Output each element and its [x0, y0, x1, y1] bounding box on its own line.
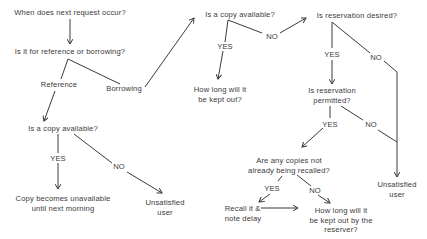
- arrow-borrowing-to-copy: [145, 18, 194, 87]
- edge-label-borrow-yes: YES: [217, 42, 233, 52]
- edge-label-desired-no: NO: [370, 53, 382, 63]
- decision-tree-diagram: When does next request occur? Is it for …: [0, 0, 427, 239]
- node-how-long-reserver: How long will it be kept out by the rese…: [309, 206, 372, 235]
- node-copy-unavailable: Copy becomes unavailable until next morn…: [16, 194, 111, 213]
- edge-label-desired-yes: YES: [324, 50, 340, 60]
- edge-label-ref-yes: YES: [50, 154, 66, 164]
- edge-label-borrow-no: NO: [266, 32, 278, 42]
- edge-label-recalled-no: NO: [309, 186, 321, 196]
- arrow-reference-to-copy: [44, 91, 55, 121]
- line-permitted-no: [378, 130, 397, 142]
- edge-label-reference: Reference: [41, 80, 77, 90]
- line-recalled-no-top: [297, 175, 311, 186]
- arrow-borrow-yes: [218, 51, 223, 79]
- line-desired-no: [332, 22, 370, 53]
- node-ref-unsatisfied-user: Unsatisfied user: [145, 198, 184, 217]
- line-to-reference: [61, 59, 68, 79]
- node-ref-copy-available: Is a copy available?: [28, 124, 98, 134]
- arrow-permitted-yes: [302, 128, 323, 147]
- arrow-recalled-no: [318, 195, 330, 203]
- node-reference-or-borrowing: Is it for reference or borrowing?: [15, 47, 125, 57]
- line-desired-no-lower: [384, 61, 397, 142]
- arrow-borrow-no: [280, 18, 306, 33]
- arrow-recalled-yes: [259, 194, 270, 202]
- line-recalled-yes-top: [278, 176, 282, 181]
- edge-label-recalled-yes: YES: [264, 184, 280, 194]
- node-next-request: When does next request occur?: [14, 8, 126, 18]
- edge-label-ref-no: NO: [113, 162, 125, 172]
- line-permitted-no-top: [341, 106, 363, 120]
- node-reservation-permitted: Is reservation permitted?: [308, 86, 356, 105]
- line-ref-no-top: [74, 134, 112, 163]
- node-how-long-kept-out: How long will it be kept out?: [194, 85, 247, 104]
- line-borrow-yes-top: [225, 20, 228, 42]
- node-reservation-desired: Is reservation desired?: [317, 11, 397, 21]
- node-copies-not-recalled: Are any copies not already being recalle…: [248, 156, 330, 175]
- node-res-unsatisfied-user: Unsatisfied user: [377, 180, 416, 199]
- node-borrow-copy-available: Is a copy available?: [205, 10, 275, 20]
- arrow-ref-no: [127, 172, 162, 193]
- edge-label-borrowing: Borrowing: [106, 84, 142, 94]
- edge-label-permitted-no: NO: [365, 120, 377, 130]
- node-recall-note-delay: Recall it & note delay: [225, 204, 262, 223]
- line-borrow-no-left: [228, 20, 262, 33]
- edge-label-permitted-yes: YES: [322, 120, 338, 130]
